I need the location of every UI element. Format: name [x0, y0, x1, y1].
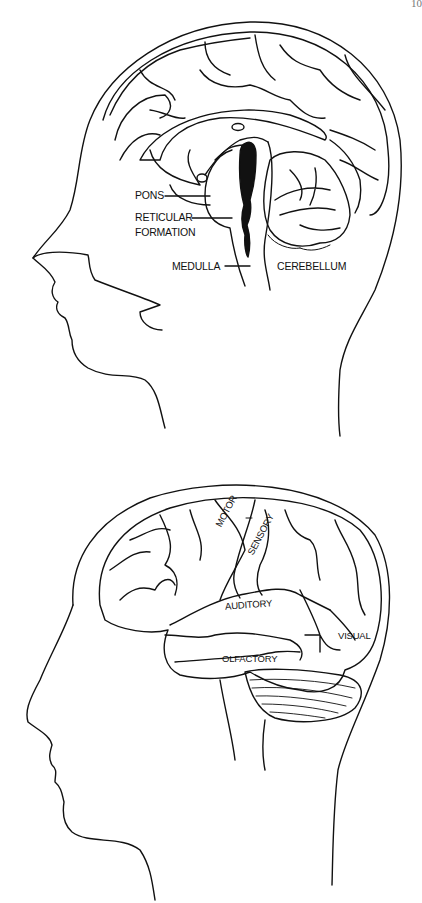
fourth-ventricle [240, 142, 256, 257]
figure-sagittal-section: PONS RETICULAR FORMATION MEDULLA CEREBEL… [0, 0, 418, 440]
figure-lateral-view: MOTOR SENSORY AUDITORY VISUAL OLFACTORY [0, 440, 418, 903]
head-outline [27, 605, 155, 900]
label-pons: PONS [135, 190, 164, 201]
label-visual: VISUAL [338, 631, 371, 641]
label-reticular: RETICULAR [135, 212, 193, 223]
label-olfactory: OLFACTORY [222, 654, 277, 664]
label-formation: FORMATION [135, 227, 195, 238]
sagittal-brain-illustration [0, 0, 418, 440]
label-medulla: MEDULLA [172, 261, 220, 272]
lateral-brain-illustration [0, 440, 418, 903]
label-cerebellum: CEREBELLUM [277, 261, 346, 272]
head-outline [33, 252, 165, 428]
brainstem [220, 680, 265, 770]
